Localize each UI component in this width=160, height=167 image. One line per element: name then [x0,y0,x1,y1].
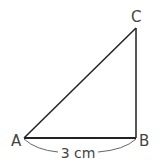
vertex-label-b: B [139,132,149,150]
vertex-label-a: A [11,132,22,150]
triangle-diagram: A B C 3 cm [0,0,160,167]
measurement-label: 3 cm [61,145,96,161]
vertex-label-c: C [131,8,141,26]
measurement-brace-left [24,139,58,152]
measurement-brace-right [98,139,136,152]
edge-ca [24,28,136,138]
